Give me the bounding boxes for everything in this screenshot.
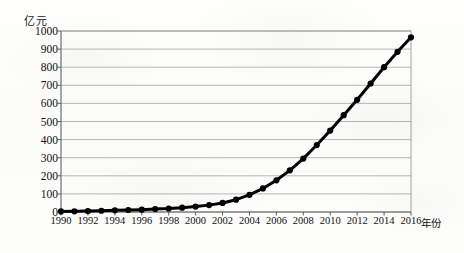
data-point-marker xyxy=(381,64,387,70)
line-chart: 亿元 01002003004005006007008009001000 1990… xyxy=(0,0,464,253)
x-tick-label: 1998 xyxy=(158,215,179,226)
data-point-marker xyxy=(112,207,118,213)
x-tick-label: 2002 xyxy=(212,215,233,226)
data-point-marker xyxy=(327,127,333,133)
data-point-marker xyxy=(341,112,347,118)
data-point-marker xyxy=(179,205,185,211)
data-point-marker xyxy=(219,200,225,206)
data-point-marker xyxy=(394,49,400,55)
data-point-marker xyxy=(166,205,172,211)
data-point-marker xyxy=(152,206,158,212)
x-tick-label: 2016 xyxy=(401,215,422,226)
data-point-marker xyxy=(71,208,77,214)
x-tick-label: 2014 xyxy=(374,215,395,226)
x-tick-label: 2010 xyxy=(320,215,341,226)
x-axis-title: 年份 xyxy=(421,215,441,230)
data-point-marker xyxy=(139,207,145,213)
data-point-marker xyxy=(273,177,279,183)
x-tick-label: 1990 xyxy=(51,215,72,226)
x-tick-label: 1992 xyxy=(77,215,98,226)
x-tick-label: 2004 xyxy=(239,215,260,226)
data-point-marker xyxy=(260,185,266,191)
data-point-marker xyxy=(58,208,64,214)
x-tick-label: 1994 xyxy=(104,215,125,226)
x-tick-label: 2012 xyxy=(347,215,368,226)
x-tick-label: 2006 xyxy=(266,215,287,226)
data-point-marker xyxy=(368,80,374,86)
data-point-marker xyxy=(246,192,252,198)
x-tick-label: 2008 xyxy=(293,215,314,226)
x-tick-label: 2000 xyxy=(185,215,206,226)
data-point-marker xyxy=(193,203,199,209)
data-point-marker xyxy=(354,97,360,103)
data-line xyxy=(61,37,411,211)
data-point-marker xyxy=(314,142,320,148)
x-tick-label: 1996 xyxy=(131,215,152,226)
x-axis-tick-labels: 1990199219941996199820002002200420062008… xyxy=(0,215,464,235)
data-point-marker xyxy=(98,208,104,214)
data-point-marker xyxy=(85,208,91,214)
data-point-marker xyxy=(408,34,414,40)
data-point-marker xyxy=(287,167,293,173)
data-point-marker xyxy=(206,202,212,208)
data-point-marker xyxy=(125,207,131,213)
data-point-marker xyxy=(233,197,239,203)
data-point-marker xyxy=(300,156,306,162)
